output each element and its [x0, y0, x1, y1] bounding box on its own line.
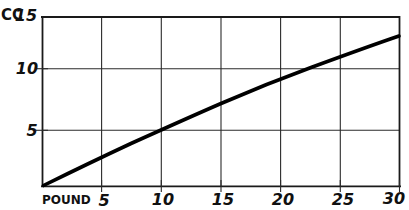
- x-axis-title: POUND: [42, 193, 91, 207]
- y-tick-label-10: 10: [16, 59, 38, 78]
- x-tick-label-25: 25: [332, 190, 354, 209]
- x-tick-label-10: 10: [152, 190, 174, 209]
- x-tick-label-5: 5: [98, 191, 109, 210]
- x-tick-label-20: 20: [272, 190, 294, 209]
- x-tick-label-15: 15: [212, 190, 234, 209]
- x-tick-label-30: 30: [383, 189, 405, 208]
- y-tick-label-15: 15: [15, 6, 37, 25]
- line-chart: CC 15 10 5 POUND 5 10 15 20 25 30: [0, 0, 409, 210]
- chart-container: CC 15 10 5 POUND 5 10 15 20 25 30: [0, 0, 409, 210]
- y-tick-label-5: 5: [26, 121, 37, 140]
